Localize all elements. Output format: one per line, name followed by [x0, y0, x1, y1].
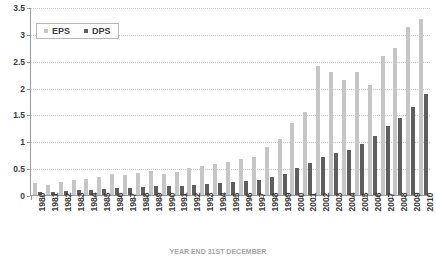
- x-label-cell: 2005: [354, 200, 367, 244]
- x-label-cell: 1996: [238, 200, 251, 244]
- x-axis-labels: 1980198119821983198419851986198719881989…: [31, 200, 431, 244]
- x-label-cell: 1994: [212, 200, 225, 244]
- y-tick-label: 2.5: [13, 57, 25, 67]
- x-label-cell: 1987: [121, 200, 134, 244]
- bar-group: [160, 8, 173, 195]
- bar-group: [417, 8, 430, 195]
- bar-dps: [321, 157, 325, 195]
- bar-group: [134, 8, 147, 195]
- legend-swatch-eps-icon: [44, 29, 48, 33]
- legend-label-dps: DPS: [92, 26, 111, 36]
- bar-group: [250, 8, 263, 195]
- bar-dps: [386, 126, 390, 195]
- x-label-cell: 1988: [134, 200, 147, 244]
- x-label-cell: 1982: [57, 200, 70, 244]
- bar-group: [211, 8, 224, 195]
- x-label-cell: 2007: [379, 200, 392, 244]
- y-tick-label: 2: [20, 84, 25, 94]
- bar-group: [147, 8, 160, 195]
- chart-caption: YEAR END 31ST DECEMBER: [0, 248, 436, 258]
- x-label-cell: 2010: [418, 200, 431, 244]
- bar-dps: [360, 144, 364, 195]
- y-tick-label: 1: [20, 137, 25, 147]
- bar-dps: [295, 168, 299, 195]
- x-label-cell: 1992: [186, 200, 199, 244]
- y-tick-mark: [27, 196, 30, 197]
- y-tick-label: 1.5: [13, 110, 25, 120]
- x-label-cell: 1981: [44, 200, 57, 244]
- x-label-cell: 1991: [173, 200, 186, 244]
- bar-eps: [239, 159, 243, 195]
- bar-eps: [419, 19, 423, 195]
- x-label-cell: 1993: [199, 200, 212, 244]
- bar-eps: [290, 123, 294, 195]
- x-label-cell: 1998: [263, 200, 276, 244]
- bar-group: [276, 8, 289, 195]
- x-label-cell: 2006: [367, 200, 380, 244]
- y-tick-label: 0: [20, 191, 25, 201]
- bar-group: [314, 8, 327, 195]
- x-label-cell: 1995: [225, 200, 238, 244]
- bar-group: [173, 8, 186, 195]
- bar-group: [404, 8, 417, 195]
- bar-eps: [316, 66, 320, 195]
- bar-eps: [381, 56, 385, 195]
- x-label-cell: 2008: [392, 200, 405, 244]
- bar-dps: [334, 153, 338, 195]
- x-label-cell: 2001: [302, 200, 315, 244]
- x-label-cell: 2009: [405, 200, 418, 244]
- y-tick-label: 3: [20, 30, 25, 40]
- legend-label-eps: EPS: [52, 26, 70, 36]
- bar-group: [379, 8, 392, 195]
- bar-eps: [342, 80, 346, 195]
- bar-eps: [226, 162, 230, 195]
- y-tick-label: 0.5: [13, 164, 25, 174]
- y-tick-mark: [27, 8, 30, 9]
- y-tick-mark: [27, 169, 30, 170]
- legend-swatch-dps-icon: [84, 29, 88, 33]
- bar-eps: [368, 85, 372, 195]
- legend-item-eps: EPS: [44, 26, 70, 36]
- bar-eps: [149, 171, 153, 195]
- bar-dps: [424, 94, 428, 196]
- bar-group: [392, 8, 405, 195]
- x-label-cell: 1999: [276, 200, 289, 244]
- bar-dps: [398, 118, 402, 195]
- x-label-cell: 2002: [315, 200, 328, 244]
- x-label-cell: 1983: [70, 200, 83, 244]
- y-tick-mark: [27, 115, 30, 116]
- bar-eps: [187, 168, 191, 195]
- y-tick-label: 3.5: [13, 3, 25, 13]
- y-tick-mark: [27, 62, 30, 63]
- bar-group: [353, 8, 366, 195]
- bar-eps: [213, 164, 217, 195]
- x-label-cell: 1990: [160, 200, 173, 244]
- bar-dps: [347, 150, 351, 195]
- bar-dps: [308, 163, 312, 195]
- bar-dps: [373, 136, 377, 195]
- chart-title: HISTORY OF EPS AND DPS: [0, 0, 436, 4]
- bar-eps: [303, 112, 307, 195]
- bar-eps: [278, 139, 282, 195]
- bar-group: [263, 8, 276, 195]
- bar-eps: [265, 147, 269, 195]
- x-label-cell: 1986: [108, 200, 121, 244]
- bar-eps: [252, 157, 256, 195]
- x-label-cell: 2004: [341, 200, 354, 244]
- y-tick-mark: [27, 142, 30, 143]
- x-label-cell: 1989: [147, 200, 160, 244]
- y-tick-mark: [27, 89, 30, 90]
- bar-dps: [411, 107, 415, 195]
- x-label-cell: 1997: [250, 200, 263, 244]
- y-tick-mark: [27, 35, 30, 36]
- x-label-cell: 2000: [289, 200, 302, 244]
- bar-group: [224, 8, 237, 195]
- x-label-cell: 1980: [31, 200, 44, 244]
- bar-group: [121, 8, 134, 195]
- x-label-cell: 2003: [328, 200, 341, 244]
- bar-group: [340, 8, 353, 195]
- bar-group: [237, 8, 250, 195]
- chart-legend: EPS DPS: [36, 23, 119, 39]
- bar-eps: [355, 72, 359, 195]
